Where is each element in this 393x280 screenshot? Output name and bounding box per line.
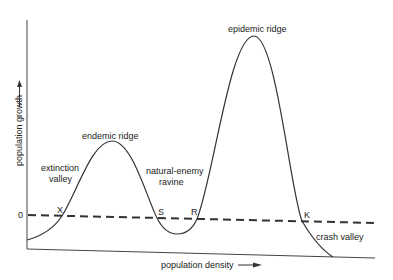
natural-enemy-ravine-label-2: ravine bbox=[159, 177, 184, 187]
point-k-label: K bbox=[304, 210, 310, 220]
endemic-ridge-label: endemic ridge bbox=[82, 131, 139, 141]
x-axis-label: population density bbox=[161, 260, 234, 270]
epidemic-ridge-label: epidemic ridge bbox=[228, 24, 287, 34]
extinction-valley-label-1: extinction bbox=[41, 163, 79, 173]
point-x-label: X bbox=[57, 205, 63, 215]
population-dynamics-diagram: population growth 0 population density e… bbox=[0, 0, 393, 280]
x-axis-arrow-icon bbox=[238, 263, 262, 268]
x-axis bbox=[27, 249, 375, 258]
growth-curve bbox=[27, 36, 333, 257]
point-r-label: R bbox=[191, 207, 198, 217]
extinction-valley-label-2: valley bbox=[49, 174, 73, 184]
natural-enemy-ravine-label-1: natural-enemy bbox=[146, 166, 204, 176]
zero-growth-line bbox=[28, 215, 376, 223]
crash-valley-label: crash valley bbox=[316, 232, 364, 242]
zero-label: 0 bbox=[18, 210, 23, 220]
point-s-label: S bbox=[158, 207, 164, 217]
